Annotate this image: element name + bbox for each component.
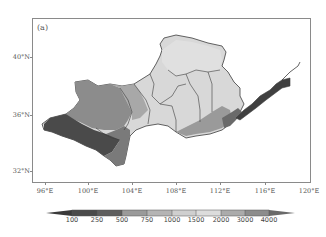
colorbar-label: 2000 [209,216,233,224]
colorbar-label: 250 [85,216,109,224]
colorbar-label: 4000 [257,216,281,224]
colorbar-label: 3000 [233,216,257,224]
colorbar-label: 1000 [160,216,184,224]
colorbar-label: 750 [135,216,159,224]
colorbar [0,0,326,237]
map-figure: (a) 40°N 36°N 32°N 96°E 100°E 104°E 108°… [0,0,326,237]
colorbar-label: 100 [60,216,84,224]
colorbar-label: 500 [110,216,134,224]
colorbar-label: 1500 [184,216,208,224]
